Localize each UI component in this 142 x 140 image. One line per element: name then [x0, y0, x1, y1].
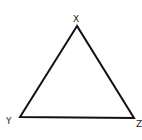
triangle-diagram: X Y Z — [0, 0, 142, 140]
vertex-label-z: Z — [136, 119, 142, 129]
vertex-label-y: Y — [5, 116, 12, 126]
triangle-xyz — [20, 26, 134, 118]
vertex-label-x: X — [73, 14, 79, 24]
